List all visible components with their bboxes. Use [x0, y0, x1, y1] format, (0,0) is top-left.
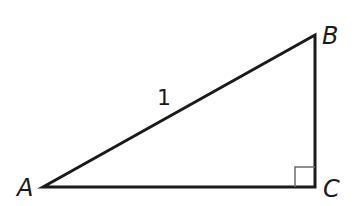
hypotenuse-length-label: 1 [157, 85, 171, 110]
vertex-label-a: A [15, 174, 33, 202]
vertex-label-c: C [323, 175, 340, 203]
vertex-label-b: B [322, 22, 338, 50]
right-angle-marker [295, 167, 315, 187]
triangle-diagram: 1 A B C [0, 0, 358, 206]
triangle-abc [43, 35, 315, 187]
